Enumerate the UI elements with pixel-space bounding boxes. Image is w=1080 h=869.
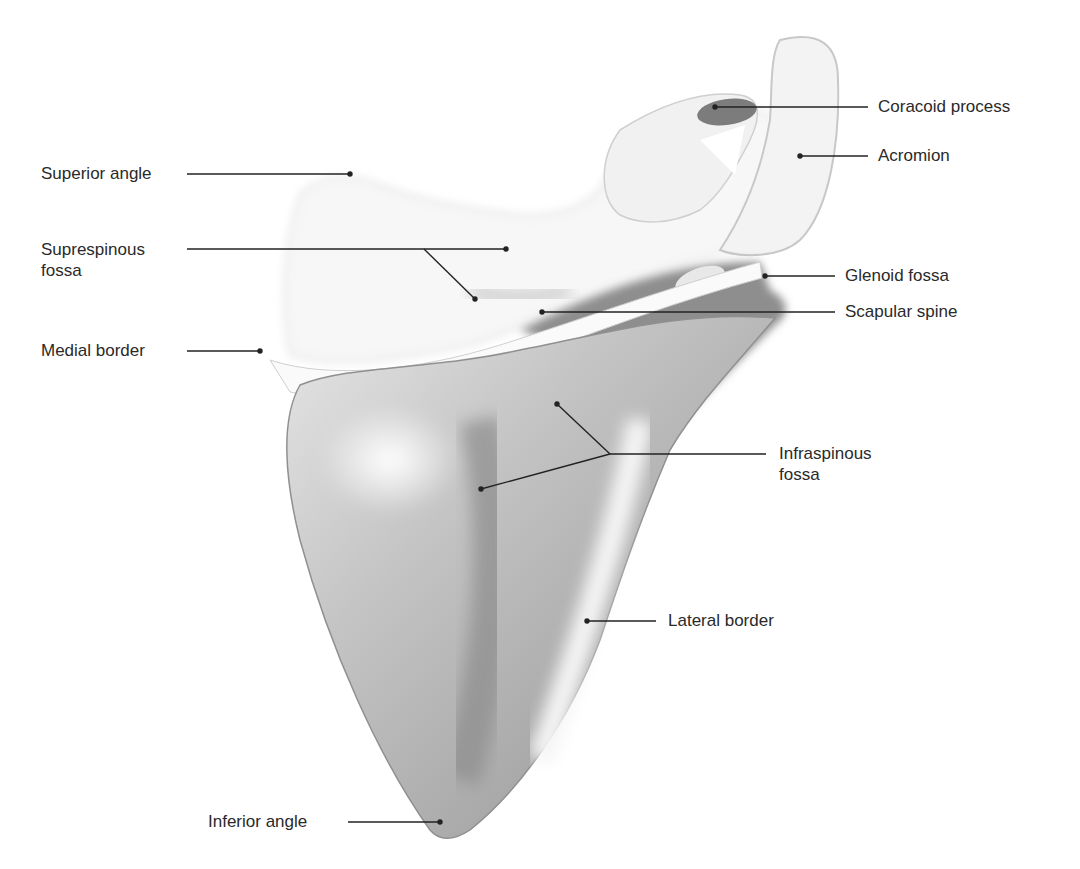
label-medial-border: Medial border [41,340,145,361]
label-scapular-spine: Scapular spine [845,301,957,322]
scapula-diagram [0,0,1080,869]
label-coracoid-process: Coracoid process [878,96,1010,117]
label-glenoid-fossa: Glenoid fossa [845,265,949,286]
label-supraspinous-fossa: Suprespinous fossa [41,239,145,281]
label-lateral-border: Lateral border [668,610,774,631]
label-infraspinous-fossa: Infraspinous fossa [779,443,872,485]
label-inferior-angle: Inferior angle [208,811,307,832]
infraspinous-body [287,316,775,838]
label-superior-angle: Superior angle [41,163,152,184]
label-acromion: Acromion [878,145,950,166]
